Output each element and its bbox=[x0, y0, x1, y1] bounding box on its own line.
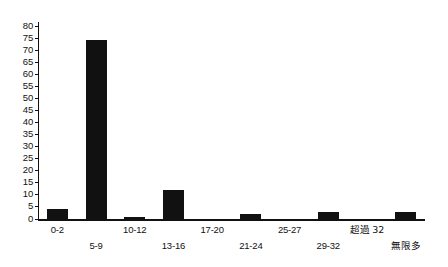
y-axis-tick-label-text: 50 bbox=[5, 93, 33, 103]
y-axis-tick bbox=[35, 134, 39, 135]
y-axis-tick bbox=[35, 219, 39, 220]
y-axis-tick bbox=[35, 74, 39, 75]
y-axis-tick-label-text: 65 bbox=[5, 57, 33, 67]
y-axis-tick bbox=[35, 122, 39, 123]
x-axis-tick-label: 25-27 bbox=[278, 224, 301, 235]
y-axis-tick-label-text: 60 bbox=[5, 69, 33, 79]
x-axis-tick-label: 0-2 bbox=[51, 224, 64, 235]
y-axis-tick-label: 50 bbox=[0, 93, 33, 103]
bar-chart: 05101520253035404550556065707580 0-25-91… bbox=[0, 0, 448, 267]
y-axis-tick bbox=[35, 158, 39, 159]
y-axis-tick-label-text: 5 bbox=[5, 201, 33, 211]
bar bbox=[86, 40, 107, 219]
bar bbox=[240, 214, 261, 219]
x-axis-tick-label: 17-20 bbox=[200, 224, 223, 235]
y-axis-tick-label: 30 bbox=[0, 141, 33, 151]
x-axis-tick-label: 21-24 bbox=[239, 240, 262, 251]
y-axis-tick bbox=[35, 26, 39, 27]
y-axis-tick bbox=[35, 38, 39, 39]
y-axis-tick bbox=[35, 98, 39, 99]
y-axis-tick-label-text: 0 bbox=[5, 214, 33, 224]
y-axis-tick-label: 0 bbox=[0, 214, 33, 224]
y-axis-tick-label-text: 35 bbox=[5, 129, 33, 139]
y-axis-tick bbox=[35, 206, 39, 207]
bar bbox=[318, 212, 339, 219]
y-axis-tick-label: 10 bbox=[0, 189, 33, 199]
y-axis-tick bbox=[35, 194, 39, 195]
x-axis-tick-label: 10-12 bbox=[123, 224, 146, 235]
y-axis-tick-label: 40 bbox=[0, 117, 33, 127]
y-axis-tick bbox=[35, 146, 39, 147]
x-axis-tick-label: 無限多 bbox=[391, 240, 420, 251]
y-axis-tick-label-text: 15 bbox=[5, 177, 33, 187]
y-axis-tick-label: 5 bbox=[0, 201, 33, 211]
y-axis-tick bbox=[35, 170, 39, 171]
y-axis-tick-label: 25 bbox=[0, 153, 33, 163]
y-axis-tick-label: 15 bbox=[0, 177, 33, 187]
y-axis-tick bbox=[35, 182, 39, 183]
y-axis-tick-label-text: 10 bbox=[5, 189, 33, 199]
y-axis-tick-label-text: 40 bbox=[5, 117, 33, 127]
x-axis-tick-label: 5-9 bbox=[89, 240, 102, 251]
bar bbox=[163, 190, 184, 219]
y-axis-tick-label: 35 bbox=[0, 129, 33, 139]
y-axis-tick-label-text: 75 bbox=[5, 33, 33, 43]
bar bbox=[47, 209, 68, 219]
x-axis-tick-label: 超過 32 bbox=[350, 224, 384, 235]
x-axis-tick-label: 29-32 bbox=[317, 240, 340, 251]
y-axis-tick-label-text: 55 bbox=[5, 81, 33, 91]
y-axis-tick bbox=[35, 62, 39, 63]
y-axis-tick-label-text: 20 bbox=[5, 165, 33, 175]
x-axis-line bbox=[38, 219, 425, 221]
x-axis-tick-label: 13-16 bbox=[162, 240, 185, 251]
y-axis-line bbox=[38, 22, 39, 220]
y-axis-tick-label-text: 30 bbox=[5, 141, 33, 151]
y-axis-tick-label-text: 25 bbox=[5, 153, 33, 163]
y-axis-tick-label: 20 bbox=[0, 165, 33, 175]
y-axis-tick-label: 60 bbox=[0, 69, 33, 79]
y-axis-tick-label: 70 bbox=[0, 45, 33, 55]
y-axis-tick-label: 80 bbox=[0, 21, 33, 31]
y-axis-tick-label: 75 bbox=[0, 33, 33, 43]
y-axis-tick-label: 55 bbox=[0, 81, 33, 91]
y-axis-tick bbox=[35, 110, 39, 111]
y-axis-tick bbox=[35, 50, 39, 51]
y-axis-tick-label: 65 bbox=[0, 57, 33, 67]
bar bbox=[395, 212, 416, 219]
y-axis-tick-label-text: 45 bbox=[5, 105, 33, 115]
bar bbox=[124, 217, 145, 219]
y-axis-tick-label-text: 80 bbox=[5, 21, 33, 31]
y-axis-tick bbox=[35, 86, 39, 87]
y-axis-tick-label-text: 70 bbox=[5, 45, 33, 55]
y-axis-tick-label: 45 bbox=[0, 105, 33, 115]
